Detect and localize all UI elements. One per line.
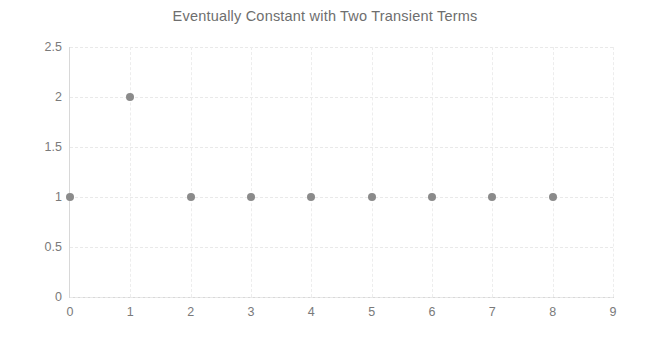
gridline-horizontal bbox=[70, 297, 613, 298]
y-axis-tick-label: 1 bbox=[16, 190, 62, 204]
x-axis-tick-label: 0 bbox=[55, 305, 85, 319]
plot-area bbox=[70, 47, 613, 297]
gridline-horizontal bbox=[70, 147, 613, 148]
gridline-vertical bbox=[372, 47, 373, 297]
gridline-vertical bbox=[432, 47, 433, 297]
data-point bbox=[66, 193, 74, 201]
x-axis-tick-label: 3 bbox=[236, 305, 266, 319]
chart-figure: Eventually Constant with Two Transient T… bbox=[0, 0, 650, 342]
gridline-horizontal bbox=[70, 47, 613, 48]
data-point bbox=[488, 193, 496, 201]
x-axis-tick-label: 1 bbox=[115, 305, 145, 319]
gridline-vertical bbox=[613, 47, 614, 297]
gridline-vertical bbox=[311, 47, 312, 297]
y-axis-tick-label: 0.5 bbox=[16, 240, 62, 254]
y-axis-tick-label: 2 bbox=[16, 90, 62, 104]
x-axis-tick-label: 6 bbox=[417, 305, 447, 319]
data-point bbox=[307, 193, 315, 201]
gridline-horizontal bbox=[70, 247, 613, 248]
chart-title: Eventually Constant with Two Transient T… bbox=[0, 8, 650, 24]
data-point bbox=[126, 93, 134, 101]
x-axis-tick-label: 9 bbox=[598, 305, 628, 319]
data-point bbox=[549, 193, 557, 201]
x-axis-tick-label: 7 bbox=[477, 305, 507, 319]
data-point bbox=[428, 193, 436, 201]
y-axis-tick-labels: 00.511.522.5 bbox=[12, 0, 62, 342]
data-point bbox=[187, 193, 195, 201]
gridline-horizontal bbox=[70, 197, 613, 198]
y-axis-tick-label: 1.5 bbox=[16, 140, 62, 154]
gridline-horizontal bbox=[70, 97, 613, 98]
gridline-vertical bbox=[251, 47, 252, 297]
y-axis-tick-label: 2.5 bbox=[16, 40, 62, 54]
gridline-vertical bbox=[492, 47, 493, 297]
y-axis-tick-label: 0 bbox=[16, 290, 62, 304]
x-axis-tick-label: 8 bbox=[538, 305, 568, 319]
data-point bbox=[247, 193, 255, 201]
gridline-vertical bbox=[191, 47, 192, 297]
x-axis-tick-label: 2 bbox=[176, 305, 206, 319]
gridline-vertical bbox=[130, 47, 131, 297]
data-point bbox=[368, 193, 376, 201]
x-axis-tick-label: 5 bbox=[357, 305, 387, 319]
gridline-vertical bbox=[553, 47, 554, 297]
x-axis-tick-label: 4 bbox=[296, 305, 326, 319]
